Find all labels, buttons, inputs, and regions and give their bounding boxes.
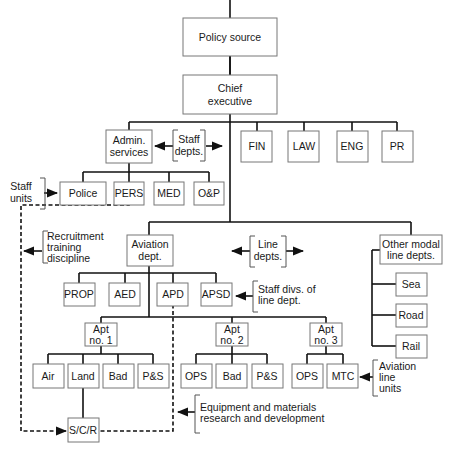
box-apt-3[interactable]: Apt no. 3 — [310, 323, 342, 346]
box-fin[interactable]: FIN — [241, 131, 272, 162]
svg-text:APD: APD — [162, 288, 184, 300]
svg-text:OPS: OPS — [296, 370, 318, 382]
box-pers[interactable]: PERS — [114, 182, 144, 205]
box-bad-1[interactable]: Bad — [103, 364, 134, 388]
svg-text:discipline: discipline — [47, 252, 90, 264]
box-road[interactable]: Road — [396, 304, 427, 327]
svg-text:ENG: ENG — [341, 140, 364, 152]
box-policy-source[interactable]: Policy source — [183, 18, 277, 56]
svg-text:MED: MED — [157, 187, 181, 199]
box-other-modal[interactable]: Other modal line depts. — [380, 235, 442, 264]
svg-text:FIN: FIN — [249, 140, 266, 152]
svg-text:AED: AED — [114, 288, 136, 300]
svg-text:PROP: PROP — [64, 288, 94, 300]
label-recruitment: Recruitment training discipline — [47, 230, 104, 264]
box-aed[interactable]: AED — [109, 283, 140, 306]
box-ops-3[interactable]: OPS — [292, 364, 323, 388]
box-med[interactable]: MED — [154, 182, 184, 205]
box-aviation-dept[interactable]: Aviation dept. — [127, 235, 173, 266]
box-prop[interactable]: PROP — [64, 283, 95, 306]
svg-text:Police: Police — [69, 187, 98, 199]
svg-text:units: units — [379, 382, 401, 394]
box-ps-1[interactable]: P&S — [138, 364, 169, 388]
svg-text:Policy source: Policy source — [199, 31, 262, 43]
label-staff-depts: Staff depts. — [175, 133, 204, 157]
svg-text:depts.: depts. — [254, 250, 283, 262]
box-police[interactable]: Police — [60, 182, 106, 205]
svg-text:Bad: Bad — [223, 370, 242, 382]
box-apt-2[interactable]: Apt no. 2 — [216, 323, 248, 346]
svg-text:line depts.: line depts. — [387, 249, 435, 261]
svg-text:dept.: dept. — [138, 250, 161, 262]
box-pr[interactable]: PR — [382, 131, 413, 162]
svg-text:O&P: O&P — [198, 187, 220, 199]
svg-text:Line: Line — [258, 238, 278, 250]
svg-text:MTC: MTC — [332, 370, 355, 382]
svg-text:no. 2: no. 2 — [220, 334, 244, 346]
svg-text:no. 1: no. 1 — [89, 334, 113, 346]
svg-text:Aviation: Aviation — [131, 238, 168, 250]
svg-text:executive: executive — [208, 95, 253, 107]
label-staff-divs: Staff divs. of line dept. — [258, 283, 316, 306]
svg-text:services: services — [110, 146, 149, 158]
svg-text:PR: PR — [390, 140, 405, 152]
svg-text:Staff: Staff — [178, 133, 199, 145]
svg-text:PERS: PERS — [115, 187, 144, 199]
box-land[interactable]: Land — [68, 364, 99, 388]
box-rail[interactable]: Rail — [396, 335, 427, 358]
svg-text:Bad: Bad — [109, 370, 128, 382]
svg-text:Rail: Rail — [402, 340, 420, 352]
svg-text:Chief: Chief — [218, 82, 243, 94]
box-eng[interactable]: ENG — [337, 131, 368, 162]
box-admin-services[interactable]: Admin. services — [106, 130, 152, 163]
org-chart-canvas: Policy source Chief executive Admin. ser… — [0, 0, 458, 456]
box-scr[interactable]: S/C/R — [68, 418, 99, 442]
svg-text:Staff: Staff — [10, 180, 31, 192]
svg-text:research and development: research and development — [200, 412, 324, 424]
box-apd[interactable]: APD — [157, 283, 188, 306]
org-chart: Policy source Chief executive Admin. ser… — [0, 0, 458, 456]
svg-text:Land: Land — [71, 370, 95, 382]
box-ops-2[interactable]: OPS — [181, 364, 212, 388]
svg-text:P&S: P&S — [142, 370, 163, 382]
svg-text:no. 3: no. 3 — [314, 334, 338, 346]
box-air[interactable]: Air — [33, 364, 64, 388]
svg-text:Admin.: Admin. — [113, 134, 146, 146]
svg-text:Sea: Sea — [402, 278, 421, 290]
box-bad-2[interactable]: Bad — [216, 364, 247, 388]
box-op[interactable]: O&P — [194, 182, 224, 205]
svg-text:units: units — [10, 192, 32, 204]
svg-text:OPS: OPS — [185, 370, 207, 382]
box-sea[interactable]: Sea — [396, 273, 427, 296]
box-apt-1[interactable]: Apt no. 1 — [85, 323, 117, 346]
svg-text:APSD: APSD — [202, 288, 231, 300]
svg-text:depts.: depts. — [175, 145, 204, 157]
label-equipment-rd: Equipment and materials research and dev… — [200, 401, 324, 424]
box-mtc[interactable]: MTC — [327, 364, 358, 388]
label-line-depts: Line depts. — [254, 238, 283, 262]
svg-text:line dept.: line dept. — [258, 294, 301, 306]
box-chief-executive[interactable]: Chief executive — [183, 75, 277, 114]
svg-text:Air: Air — [42, 370, 55, 382]
label-staff-units: Staff units — [10, 180, 32, 204]
svg-text:LAW: LAW — [293, 140, 315, 152]
box-ps-2[interactable]: P&S — [252, 364, 283, 388]
svg-text:P&S: P&S — [256, 370, 277, 382]
box-apsd[interactable]: APSD — [201, 283, 232, 306]
box-law[interactable]: LAW — [288, 131, 319, 162]
label-aviation-line-units: Aviation line units — [379, 360, 416, 394]
svg-text:S/C/R: S/C/R — [69, 424, 97, 436]
svg-text:Road: Road — [398, 309, 423, 321]
